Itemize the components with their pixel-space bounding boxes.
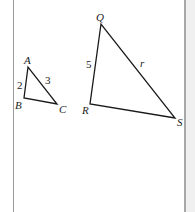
side-label-qs: r <box>140 57 145 69</box>
triangle-qrs: Q R S 5 r <box>81 11 183 128</box>
side-label-ab: 2 <box>17 79 23 91</box>
vertex-label-r: R <box>81 104 89 116</box>
vertex-label-c: C <box>59 103 67 115</box>
triangle-abc: A B C 2 3 <box>15 54 67 115</box>
vertex-label-a: A <box>23 54 31 66</box>
vertex-label-s: S <box>177 116 183 128</box>
vertex-label-q: Q <box>96 11 104 23</box>
vertex-label-b: B <box>15 99 22 111</box>
similar-triangles-diagram: A B C 2 3 Q R S 5 r <box>0 0 195 212</box>
side-label-ac: 3 <box>45 74 51 86</box>
side-label-qr: 5 <box>86 58 92 70</box>
